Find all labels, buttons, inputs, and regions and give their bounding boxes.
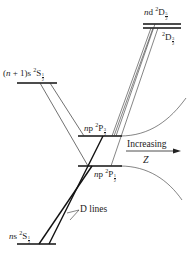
splitting-curve-lower bbox=[120, 166, 182, 200]
label-orb: s bbox=[14, 231, 18, 241]
label-orb: d bbox=[149, 7, 154, 17]
splitting-curve-upper bbox=[120, 98, 186, 136]
label-n1s-2S1/2: (n + 1)s 2S12 bbox=[3, 67, 44, 83]
j-den: 2 bbox=[165, 17, 167, 22]
label-term: P bbox=[108, 169, 113, 179]
j-den: 2 bbox=[172, 42, 174, 47]
label-np-2P1/2: np 2P12 bbox=[94, 168, 116, 184]
label-ns-2S1/2: ns 2S12 bbox=[9, 230, 30, 246]
label-rest: + 1)s bbox=[11, 68, 32, 78]
transition-n1s-to-2P1/2 bbox=[40, 83, 88, 166]
j-den: 2 bbox=[114, 179, 116, 184]
label-orb: p bbox=[89, 123, 94, 133]
j-den: 2 bbox=[28, 241, 30, 246]
label-j: 12 bbox=[28, 236, 30, 246]
label-j: 52 bbox=[165, 12, 167, 22]
label-term: D bbox=[158, 7, 165, 17]
d-lines-pointer bbox=[67, 210, 79, 220]
label-term: D bbox=[165, 32, 172, 42]
arrow-head-icon bbox=[173, 149, 181, 154]
label-j: 12 bbox=[114, 174, 116, 184]
label-term: P bbox=[98, 123, 103, 133]
label-increasing: Increasing bbox=[127, 140, 167, 150]
label-j: 32 bbox=[172, 37, 174, 47]
label-d-lines: D lines bbox=[80, 205, 107, 215]
label-term: S bbox=[36, 68, 41, 78]
label-orb: p bbox=[99, 169, 104, 179]
label-j: 32 bbox=[104, 128, 106, 138]
label-z: Z bbox=[143, 155, 149, 165]
label-nd-2D5/2: nd 2D52 bbox=[144, 6, 168, 22]
transition-nd-to-2P3/2-b bbox=[114, 28, 153, 136]
transition-nd-to-2P3/2-a bbox=[112, 28, 151, 136]
label-j: 12 bbox=[42, 73, 44, 83]
j-den: 2 bbox=[42, 78, 44, 83]
label-nd-2D3/2: 2D32 bbox=[162, 31, 174, 47]
label-np-2P3/2: np 2P32 bbox=[84, 122, 106, 138]
label-term: S bbox=[22, 231, 27, 241]
j-den: 2 bbox=[104, 133, 106, 138]
transition-nd-to-2P3/2-c bbox=[116, 24, 155, 136]
